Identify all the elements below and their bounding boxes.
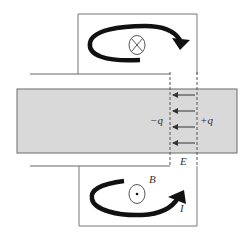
positive-charge-label: +q: [200, 114, 213, 126]
top-circulation-arrow-icon: [90, 26, 190, 60]
magnetic-field-label: B: [149, 173, 156, 185]
out-of-page-dot-icon: [129, 185, 145, 204]
capacitor-field-diagram: −q +q E B I: [0, 0, 250, 239]
negative-charge-label: −q: [150, 114, 163, 126]
current-label: I: [179, 202, 185, 214]
bottom-circulation-arrow-icon: [92, 181, 186, 215]
into-page-cross-icon: [129, 36, 145, 55]
electric-field-label: E: [179, 155, 187, 167]
